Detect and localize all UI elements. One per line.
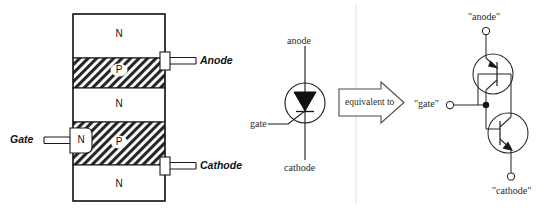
dope-label-n-middle: N (111, 99, 127, 109)
dope-label-p-upper: P (111, 65, 127, 75)
equivalence-arrow-label: equivalent to (345, 98, 394, 108)
cathode-lead (170, 163, 196, 170)
dope-label-n-top: N (111, 29, 127, 39)
terminal-anode (160, 52, 196, 70)
equiv-cathode-label: "cathode" (492, 186, 531, 196)
gate-lead (44, 137, 70, 144)
equiv-cathode-node (507, 173, 514, 180)
terminal-label-anode: Anode (200, 55, 233, 66)
scr-schematic-symbol (268, 46, 325, 160)
anode-contact-pad (160, 52, 170, 70)
equiv-gate-terminal-node (446, 101, 453, 108)
dope-label-n-bottom: N (111, 179, 127, 189)
scr-anode-label: anode (287, 36, 311, 46)
cathode-contact-pad (160, 157, 170, 175)
equiv-gate-label: "gate" (414, 99, 439, 109)
dope-label-p-lower: P (111, 137, 127, 147)
scr-cathode-label: cathode (284, 163, 315, 173)
figure-canvas: N P N P N N Anode Gate Cathode anode gat… (0, 0, 556, 208)
npn-collector-slant (500, 117, 511, 127)
two-transistor-equivalent-circuit (446, 27, 528, 180)
dope-label-gate-pocket: N (73, 135, 89, 145)
figure-vector-layer (0, 0, 556, 208)
scr-gate-label: gate (250, 119, 267, 129)
scr-triangle (294, 92, 316, 111)
terminal-cathode (160, 157, 196, 175)
pnp-collector-slant (486, 80, 497, 90)
equiv-anode-node (482, 27, 489, 34)
terminal-label-cathode: Cathode (200, 160, 242, 171)
anode-lead (170, 58, 196, 65)
terminal-label-gate: Gate (10, 134, 33, 145)
equiv-anode-label: "anode" (468, 12, 500, 22)
